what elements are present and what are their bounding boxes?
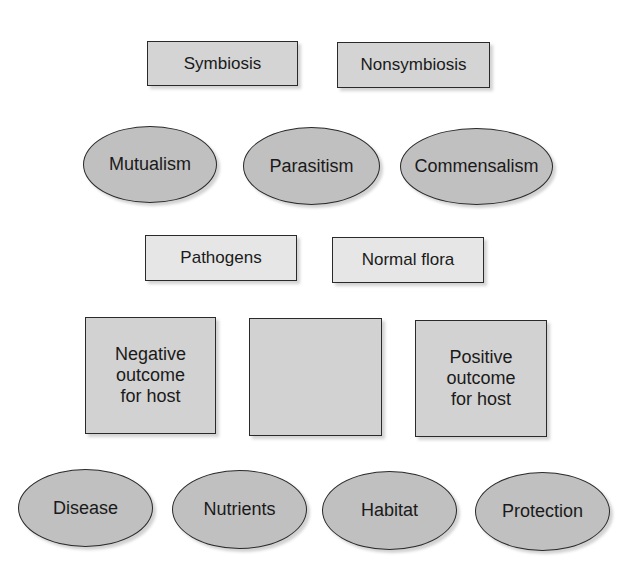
pathogens-label: Pathogens xyxy=(180,248,261,268)
negative-line2: outcome xyxy=(116,365,185,386)
negative-line1: Negative xyxy=(115,344,186,365)
pathogens-box: Pathogens xyxy=(145,235,297,281)
habitat-label: Habitat xyxy=(361,500,418,521)
disease-label: Disease xyxy=(53,498,118,519)
disease-ellipse: Disease xyxy=(18,469,153,547)
symbiosis-box: Symbiosis xyxy=(147,41,298,86)
positive-line3: for host xyxy=(451,389,511,410)
mutualism-ellipse: Mutualism xyxy=(83,126,217,203)
nonsymbiosis-label: Nonsymbiosis xyxy=(361,55,467,75)
positive-line2: outcome xyxy=(446,368,515,389)
normal-flora-box: Normal flora xyxy=(332,237,484,283)
parasitism-ellipse: Parasitism xyxy=(243,127,380,205)
protection-label: Protection xyxy=(502,501,583,522)
nutrients-ellipse: Nutrients xyxy=(172,470,307,549)
negative-line3: for host xyxy=(120,386,180,407)
parasitism-label: Parasitism xyxy=(269,156,353,177)
symbiosis-label: Symbiosis xyxy=(184,54,261,74)
positive-outcome-box: Positive outcome for host xyxy=(415,320,547,437)
commensalism-ellipse: Commensalism xyxy=(400,128,553,205)
commensalism-label: Commensalism xyxy=(414,156,538,177)
positive-line1: Positive xyxy=(449,347,512,368)
normal-flora-label: Normal flora xyxy=(362,250,455,270)
negative-outcome-box: Negative outcome for host xyxy=(85,317,216,434)
mutualism-label: Mutualism xyxy=(109,154,191,175)
blank-box xyxy=(249,318,382,436)
protection-ellipse: Protection xyxy=(475,472,610,551)
nonsymbiosis-box: Nonsymbiosis xyxy=(337,42,490,88)
nutrients-label: Nutrients xyxy=(203,499,275,520)
habitat-ellipse: Habitat xyxy=(322,471,457,550)
